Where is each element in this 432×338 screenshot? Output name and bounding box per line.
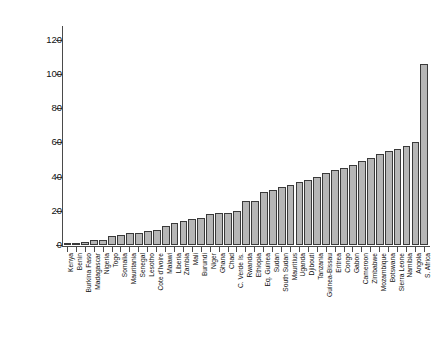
bar-slot[interactable]	[188, 26, 197, 245]
bar[interactable]	[215, 213, 223, 246]
x-label-slot: Cote d'Ivoire	[152, 253, 161, 337]
x-label-slot: Congo	[340, 253, 349, 337]
x-axis-ticks	[63, 247, 429, 252]
bar-slot[interactable]	[125, 26, 134, 245]
bar[interactable]	[99, 240, 107, 245]
bar[interactable]	[287, 185, 295, 245]
x-tick-slot	[134, 247, 143, 252]
bar-slot[interactable]	[143, 26, 152, 245]
x-tick-slot	[63, 247, 72, 252]
bar[interactable]	[340, 168, 348, 245]
bar[interactable]	[304, 180, 312, 245]
bar-slot[interactable]	[322, 26, 331, 245]
x-tick-mark	[424, 247, 425, 252]
bar[interactable]	[180, 221, 188, 245]
bar-slot[interactable]	[304, 26, 313, 245]
bar[interactable]	[322, 173, 330, 245]
bar-slot[interactable]	[277, 26, 286, 245]
bar-slot[interactable]	[233, 26, 242, 245]
bar-slot[interactable]	[286, 26, 295, 245]
bar[interactable]	[126, 233, 134, 245]
bar-slot[interactable]	[108, 26, 117, 245]
bar[interactable]	[233, 211, 241, 245]
bar-slot[interactable]	[63, 26, 72, 245]
bar[interactable]	[64, 243, 72, 245]
bar-slot[interactable]	[206, 26, 215, 245]
bar[interactable]	[403, 146, 411, 245]
bar[interactable]	[420, 64, 428, 245]
bar-slot[interactable]	[170, 26, 179, 245]
x-tick-mark	[254, 247, 255, 252]
x-tick-mark	[138, 247, 139, 252]
bar[interactable]	[108, 236, 116, 245]
bar[interactable]	[171, 223, 179, 245]
x-label-slot: Cameroon	[357, 253, 366, 337]
bar-slot[interactable]	[117, 26, 126, 245]
bar-slot[interactable]	[179, 26, 188, 245]
x-tick-mark	[183, 247, 184, 252]
bar-slot[interactable]	[250, 26, 259, 245]
x-tick-mark	[147, 247, 148, 252]
bar-slot[interactable]	[215, 26, 224, 245]
bar[interactable]	[394, 149, 402, 245]
bar[interactable]	[206, 214, 214, 245]
bar[interactable]	[144, 231, 152, 245]
x-label-slot: Niger	[206, 253, 215, 337]
bar-slot[interactable]	[420, 26, 429, 245]
bar[interactable]	[331, 170, 339, 245]
bar[interactable]	[224, 213, 232, 246]
bar[interactable]	[72, 243, 80, 245]
bar-slot[interactable]	[340, 26, 349, 245]
bar[interactable]	[260, 192, 268, 245]
bar[interactable]	[296, 182, 304, 245]
bar-slot[interactable]	[375, 26, 384, 245]
bar[interactable]	[242, 201, 250, 245]
bar-slot[interactable]	[366, 26, 375, 245]
bar-slot[interactable]	[393, 26, 402, 245]
bar-slot[interactable]	[402, 26, 411, 245]
bar-slot[interactable]	[161, 26, 170, 245]
x-tick-slot	[277, 247, 286, 252]
bar[interactable]	[385, 151, 393, 245]
bar[interactable]	[117, 235, 125, 245]
bar[interactable]	[358, 161, 366, 245]
bar-slot[interactable]	[357, 26, 366, 245]
bar[interactable]	[90, 240, 98, 245]
bar[interactable]	[367, 158, 375, 245]
bar[interactable]	[251, 201, 259, 245]
bar-slot[interactable]	[72, 26, 81, 245]
x-tick-slot	[250, 247, 259, 252]
bar-slot[interactable]	[134, 26, 143, 245]
x-label-slot: C. Verde Is.	[233, 253, 242, 337]
bar[interactable]	[81, 242, 89, 245]
x-tick-slot	[259, 247, 268, 252]
bar[interactable]	[153, 230, 161, 245]
bar-series	[63, 26, 429, 245]
bar-slot[interactable]	[81, 26, 90, 245]
bar[interactable]	[412, 142, 420, 245]
bar[interactable]	[188, 219, 196, 245]
bar-slot[interactable]	[241, 26, 250, 245]
bar[interactable]	[197, 218, 205, 245]
bar[interactable]	[376, 154, 384, 245]
bar-slot[interactable]	[349, 26, 358, 245]
bar[interactable]	[349, 165, 357, 245]
bar-slot[interactable]	[99, 26, 108, 245]
bar[interactable]	[313, 177, 321, 245]
bar-slot[interactable]	[331, 26, 340, 245]
bar-slot[interactable]	[152, 26, 161, 245]
bar-slot[interactable]	[384, 26, 393, 245]
bar-slot[interactable]	[224, 26, 233, 245]
bar-slot[interactable]	[411, 26, 420, 245]
bar[interactable]	[269, 190, 277, 245]
bar[interactable]	[162, 226, 170, 245]
bar-slot[interactable]	[90, 26, 99, 245]
bar-slot[interactable]	[268, 26, 277, 245]
bar[interactable]	[135, 233, 143, 245]
bar-slot[interactable]	[313, 26, 322, 245]
x-tick-slot	[322, 247, 331, 252]
bar-slot[interactable]	[197, 26, 206, 245]
bar-slot[interactable]	[259, 26, 268, 245]
bar-slot[interactable]	[295, 26, 304, 245]
bar[interactable]	[278, 187, 286, 245]
